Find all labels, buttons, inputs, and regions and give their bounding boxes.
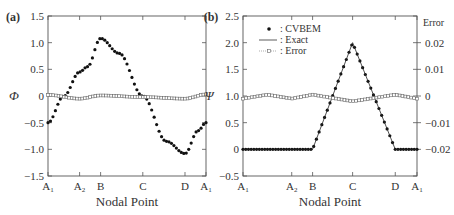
cvbem-marker — [93, 48, 96, 51]
error-marker — [323, 95, 326, 98]
error-marker — [358, 99, 361, 102]
cvbem-marker — [106, 41, 109, 44]
y-tick-label: 2.5 — [225, 10, 239, 22]
cvbem-marker — [170, 142, 173, 145]
error-marker — [366, 98, 369, 101]
panel-label: (a) — [6, 10, 20, 24]
error-marker — [392, 93, 395, 96]
error-marker — [268, 94, 271, 97]
cvbem-marker — [71, 80, 74, 83]
cvbem-marker — [148, 102, 151, 105]
cvbem-marker — [204, 121, 207, 124]
error-marker — [329, 96, 332, 99]
y-tick-label: 0 — [39, 90, 45, 102]
error-marker — [314, 94, 317, 97]
x-tick-label: C — [139, 180, 146, 192]
error-marker — [413, 97, 416, 100]
cvbem-marker — [138, 92, 141, 95]
x-tick-label: D — [181, 180, 189, 192]
y2-tick-label: 0.02 — [425, 37, 444, 49]
cvbem-marker — [125, 62, 128, 65]
error-marker — [317, 94, 320, 97]
x-tick-label: A1 — [42, 180, 54, 194]
error-marker — [352, 100, 355, 103]
error-marker — [311, 93, 314, 96]
y2-tick-label: −0.01 — [425, 117, 450, 129]
error-marker — [378, 96, 381, 99]
cvbem-marker — [81, 69, 84, 72]
cvbem-marker — [49, 119, 52, 122]
y-axis-label: Ψ — [204, 88, 215, 103]
error-marker — [279, 95, 282, 98]
chart-panel-b: (b)2.52.01.51.00.50−0.5A1A2BCDA1Nodal Po… — [204, 10, 451, 209]
error-marker — [410, 96, 413, 99]
error-marker — [390, 94, 393, 97]
cvbem-marker — [86, 65, 89, 68]
y-tick-label: 1.5 — [225, 63, 239, 75]
error-marker — [250, 96, 253, 99]
x-axis-label: Nodal Point — [299, 194, 362, 209]
error-marker — [363, 98, 366, 101]
x-tick-label: A1 — [237, 180, 249, 194]
error-marker — [259, 94, 262, 97]
cvbem-marker — [197, 129, 200, 132]
y-tick-label: 0 — [234, 143, 240, 155]
error-marker — [242, 97, 245, 100]
cvbem-marker — [96, 41, 99, 44]
y-tick-label: 1.0 — [30, 37, 44, 49]
legend-error-icon — [268, 50, 271, 53]
cvbem-marker — [130, 76, 133, 79]
error-marker — [320, 95, 323, 98]
error-marker — [285, 96, 288, 99]
error-marker — [332, 97, 335, 100]
error-marker — [346, 99, 349, 102]
x-axis-label: Nodal Point — [96, 194, 159, 209]
error-marker — [369, 97, 372, 100]
error-marker — [274, 95, 277, 98]
cvbem-marker — [108, 44, 111, 47]
legend-label: : CVBEM — [280, 23, 321, 34]
x-tick-label: B — [97, 180, 104, 192]
error-marker — [381, 95, 384, 98]
y-tick-label: 1.0 — [225, 90, 239, 102]
error-marker — [262, 94, 265, 97]
cvbem-marker — [175, 147, 178, 150]
cvbem-marker — [123, 57, 126, 60]
legend-label: : Error — [280, 45, 307, 56]
cvbem-marker — [128, 69, 131, 72]
panel-label: (b) — [204, 10, 219, 24]
error-marker — [398, 94, 401, 97]
chart-panel-a: (a)1.51.00.50−0.5−1.0−1.5A1A2BCDA1Nodal … — [6, 10, 212, 209]
error-marker — [337, 98, 340, 101]
error-marker — [355, 99, 358, 102]
y2-tick-label: 0.01 — [425, 63, 444, 75]
cvbem-marker — [187, 148, 190, 151]
legend-label: : Exact — [280, 34, 308, 45]
error-marker — [334, 97, 337, 100]
error-marker — [340, 98, 343, 101]
cvbem-marker — [190, 142, 193, 145]
y-tick-label: −1.0 — [24, 143, 44, 155]
error-marker — [294, 97, 297, 100]
error-marker — [395, 94, 398, 97]
legend: : CVBEM: Exact: Error — [259, 23, 321, 56]
error-marker — [308, 94, 311, 97]
error-marker — [407, 96, 410, 99]
error-marker — [404, 95, 407, 98]
cvbem-marker — [153, 116, 156, 119]
cvbem-marker — [74, 75, 77, 78]
cvbem-marker — [66, 91, 69, 94]
error-marker — [372, 97, 375, 100]
cvbem-marker — [56, 103, 59, 106]
error-marker — [416, 97, 419, 100]
cvbem-marker — [155, 123, 158, 126]
y-tick-label: 2.0 — [225, 37, 239, 49]
cvbem-marker — [54, 109, 57, 112]
y-axis-label: Φ — [9, 88, 19, 103]
x-tick-label: A1 — [200, 180, 212, 194]
error-marker — [401, 95, 404, 98]
cvbem-marker — [51, 115, 54, 118]
y2-axis-label: Error — [423, 17, 445, 28]
error-marker — [291, 97, 294, 100]
x-tick-label: A1 — [411, 180, 423, 194]
